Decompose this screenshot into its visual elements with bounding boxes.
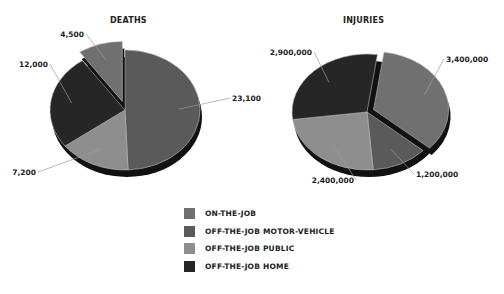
legend-label: OFF-THE-JOB PUBLIC (205, 244, 295, 253)
legend-label: OFF-THE-JOB HOME (205, 262, 289, 271)
slice-value-label: 7,200 (12, 168, 36, 177)
legend-swatch-home (184, 261, 195, 272)
legend-item-motor-vehicle: OFF-THE-JOB MOTOR-VEHICLE (184, 223, 335, 241)
legend-item-public: OFF-THE-JOB PUBLIC (184, 240, 335, 258)
pie-charts: 23,1007,20012,0004,5003,400,0001,200,000… (0, 0, 504, 200)
deaths-pie: 23,1007,20012,0004,500 (12, 30, 261, 177)
slice-value-label: 2,400,000 (312, 176, 354, 185)
injuries-pie: 3,400,0001,200,0002,400,0002,900,000 (270, 48, 488, 185)
pie-slice-off-the-job-motor-vehicle (125, 50, 200, 170)
legend-swatch-public (184, 243, 195, 254)
slice-value-label: 23,100 (232, 94, 261, 103)
legend-item-home: OFF-THE-JOB HOME (184, 258, 335, 276)
slice-value-label: 2,900,000 (270, 48, 312, 57)
legend-swatch-motor-vehicle (184, 226, 195, 237)
slice-value-label: 12,000 (19, 60, 48, 69)
legend-swatch-on-the-job (184, 208, 195, 219)
legend-item-on-the-job: ON-THE-JOB (184, 205, 335, 223)
pie-slice-off-the-job-home (292, 54, 377, 120)
pie-slice-off-the-job-public (293, 112, 374, 170)
slice-value-label: 4,500 (60, 30, 84, 39)
slice-value-label: 1,200,000 (416, 170, 458, 179)
legend-label: ON-THE-JOB (205, 209, 256, 218)
legend: ON-THE-JOB OFF-THE-JOB MOTOR-VEHICLE OFF… (184, 205, 335, 275)
legend-label: OFF-THE-JOB MOTOR-VEHICLE (205, 227, 335, 236)
slice-value-label: 3,400,000 (446, 55, 488, 64)
